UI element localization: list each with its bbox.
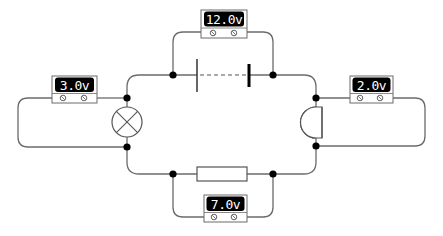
voltmeter-reading: 12.0v — [206, 12, 243, 27]
battery-symbol — [197, 59, 249, 92]
resistor-symbol — [197, 167, 247, 181]
junction-dot — [123, 143, 130, 150]
junction-dot — [312, 142, 319, 149]
junction-dot — [123, 94, 130, 101]
junction-dot — [269, 170, 276, 177]
voltmeter-reading: 2.0v — [357, 78, 387, 93]
junction-dots — [123, 71, 319, 177]
voltmeter-resistor: 7.0v — [204, 195, 247, 222]
junction-dot — [169, 71, 176, 78]
voltmeter-reading: 7.0v — [211, 197, 241, 212]
voltmeter-lamp: 3.0v — [52, 76, 97, 103]
junction-dot — [269, 71, 276, 78]
voltmeter-reading: 3.0v — [60, 78, 90, 93]
circuit-diagram: 12.0v 3.0v 2.0v 7.0v — [0, 0, 443, 236]
main-loop-wires — [127, 75, 316, 174]
voltmeter-battery: 12.0v — [201, 10, 247, 38]
junction-dot — [312, 94, 319, 101]
buzzer-symbol — [301, 107, 323, 138]
voltmeter-buzzer: 2.0v — [350, 76, 393, 103]
junction-dot — [169, 170, 176, 177]
lamp-symbol — [112, 107, 142, 137]
voltmeter-wires — [18, 32, 425, 217]
